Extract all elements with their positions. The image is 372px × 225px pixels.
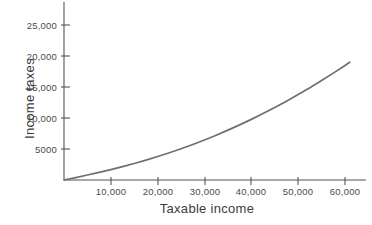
y-axis-ticks (61, 25, 70, 149)
y-axis-title: Income taxes (22, 29, 37, 169)
x-axis-ticks (111, 177, 345, 185)
x-tick-label-20000: 20,000 (143, 186, 173, 197)
x-tick-label-40000: 40,000 (236, 186, 266, 197)
x-tick-label-10000: 10,000 (96, 186, 126, 197)
chart-figure: 5000 10,000 15,000 20,000 25,000 10,000 … (0, 0, 372, 225)
x-tick-label-60000: 60,000 (330, 186, 360, 197)
x-tick-label-30000: 30,000 (190, 186, 220, 197)
tax-curve-line (64, 62, 350, 180)
x-axis-title: Taxable income (0, 201, 372, 216)
x-tick-label-50000: 50,000 (283, 186, 313, 197)
